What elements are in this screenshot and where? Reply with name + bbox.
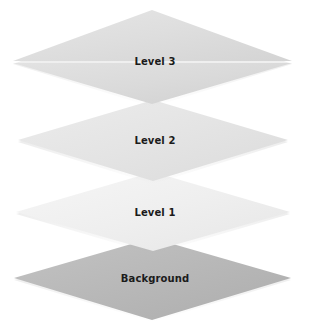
layered-stack-diagram: Level 3 Level 2 Level 1 Background bbox=[0, 0, 310, 329]
layer-label-level-2: Level 2 bbox=[0, 136, 310, 146]
layer-label-background: Background bbox=[0, 274, 310, 284]
layer-label-level-1: Level 1 bbox=[0, 208, 310, 218]
level-3-layer-bottom-face bbox=[13, 63, 292, 104]
layer-label-level-3: Level 3 bbox=[0, 57, 310, 67]
level-3-layer-top-face bbox=[13, 10, 292, 61]
